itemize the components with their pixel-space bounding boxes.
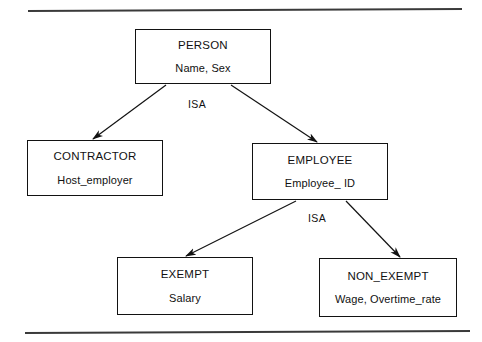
entity-name-non-exempt: NON_EXEMPT xyxy=(347,270,428,283)
edge-employee-to-non-exempt xyxy=(346,201,400,257)
entity-box-person[interactable]: PERSON Name, Sex xyxy=(135,29,271,84)
edge-person-to-employee xyxy=(231,85,317,142)
entity-name-employee: EMPLOYEE xyxy=(288,154,353,167)
edge-employee-to-exempt xyxy=(186,201,296,256)
entity-box-non-exempt[interactable]: NON_EXEMPT Wage, Overtime_rate xyxy=(319,258,457,317)
entity-box-contractor[interactable]: CONTRACTOR Host_employer xyxy=(27,140,163,196)
top-rule xyxy=(28,9,462,11)
isa-label-employee: ISA xyxy=(308,212,326,224)
entity-name-person: PERSON xyxy=(178,39,228,52)
entity-name-contractor: CONTRACTOR xyxy=(54,150,137,163)
entity-box-exempt[interactable]: EXEMPT Salary xyxy=(117,257,253,315)
entity-box-employee[interactable]: EMPLOYEE Employee_ ID xyxy=(252,143,388,200)
bottom-rule xyxy=(25,331,470,333)
isa-hierarchy-diagram: PERSON Name, Sex CONTRACTOR Host_employe… xyxy=(0,0,482,342)
entity-attributes-person: Name, Sex xyxy=(175,62,230,74)
entity-name-exempt: EXEMPT xyxy=(161,268,210,281)
entity-attributes-employee: Employee_ ID xyxy=(285,177,355,189)
entity-attributes-exempt: Salary xyxy=(169,292,201,304)
entity-attributes-contractor: Host_employer xyxy=(57,174,132,186)
entity-attributes-non-exempt: Wage, Overtime_rate xyxy=(335,293,441,305)
isa-label-person: ISA xyxy=(188,98,206,110)
edge-person-to-contractor xyxy=(93,85,166,139)
